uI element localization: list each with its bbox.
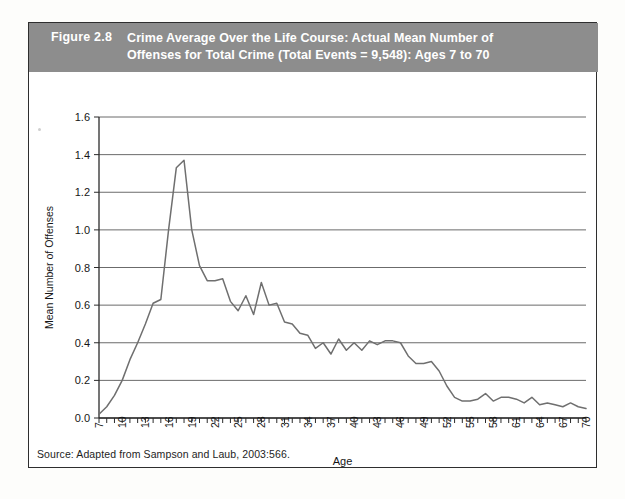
- y-axis-tick-label: 0.8: [75, 262, 90, 274]
- x-axis-tick-label: 52: [441, 416, 453, 428]
- figure-frame: Figure 2.8 Crime Average Over the Life C…: [28, 22, 597, 468]
- plot-area: 0.00.20.40.60.81.01.21.41.67101316192225…: [29, 72, 598, 469]
- x-axis-tick-label: 64: [534, 416, 546, 428]
- y-axis-tick-label: 0.4: [75, 337, 90, 349]
- figure-header: Figure 2.8 Crime Average Over the Life C…: [29, 23, 598, 72]
- figure-title-line2: Offenses for Total Crime (Total Events =…: [127, 47, 493, 64]
- y-axis-tick-label: 0.6: [75, 299, 90, 311]
- y-axis-tick-label: 0.2: [75, 374, 90, 386]
- y-axis-tick-label: 1.4: [75, 149, 90, 161]
- scan-speck: [38, 128, 41, 131]
- x-axis-tick-label: 28: [255, 416, 267, 428]
- x-axis-tick-label: 43: [371, 416, 383, 428]
- x-axis-tick-label: 70: [580, 416, 592, 428]
- x-axis-tick-label: 61: [510, 416, 522, 428]
- x-axis-tick-label: 46: [394, 416, 406, 428]
- y-axis-tick-label: 1.0: [75, 224, 90, 236]
- x-axis-tick-label: 31: [279, 416, 291, 428]
- x-axis-tick-label: 49: [418, 416, 430, 428]
- source-note: Source: Adapted from Sampson and Laub, 2…: [37, 448, 290, 460]
- x-axis-tick-label: 67: [557, 416, 569, 428]
- line-chart: 0.00.20.40.60.81.01.21.41.67101316192225…: [29, 72, 598, 469]
- figure-page: Figure 2.8 Crime Average Over the Life C…: [0, 0, 625, 499]
- x-axis-tick-label: 55: [464, 416, 476, 428]
- figure-title-line1: Crime Average Over the Life Course: Actu…: [127, 30, 493, 47]
- y-axis-tick-label: 1.6: [75, 111, 90, 123]
- x-axis-tick-label: 34: [302, 416, 314, 428]
- x-axis-title: Age: [333, 455, 353, 467]
- x-axis-tick-label: 22: [209, 416, 221, 428]
- x-axis-tick-label: 7: [93, 422, 105, 428]
- x-axis-tick-label: 19: [186, 416, 198, 428]
- y-axis-tick-label: 1.2: [75, 186, 90, 198]
- x-axis-tick-label: 13: [139, 416, 151, 428]
- y-axis-title: Mean Number of Offenses: [43, 206, 55, 329]
- x-axis-tick-label: 16: [163, 416, 175, 428]
- x-axis-tick-label: 37: [325, 416, 337, 428]
- x-axis-tick-label: 40: [348, 416, 360, 428]
- x-axis-tick-label: 25: [232, 416, 244, 428]
- figure-number: Figure 2.8: [51, 30, 127, 44]
- y-axis-tick-label: 0.0: [75, 412, 90, 424]
- x-axis-tick-label: 58: [487, 416, 499, 428]
- x-axis-tick-label: 10: [116, 416, 128, 428]
- data-series-line: [99, 160, 586, 414]
